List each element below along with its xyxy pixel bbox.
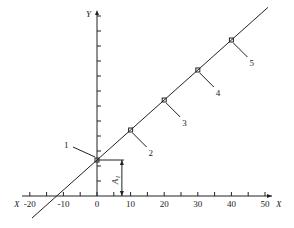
x-tick-label: 0 bbox=[95, 199, 100, 209]
offset-label: A₁ bbox=[110, 176, 120, 186]
x-tick-label: 20 bbox=[160, 199, 170, 209]
x-axis-label: X bbox=[275, 199, 282, 209]
leader-line bbox=[133, 133, 147, 147]
y-axis-arrow-icon bbox=[95, 10, 99, 15]
x-tick-label: -20 bbox=[24, 199, 36, 209]
leader-line bbox=[166, 103, 180, 117]
linear-relation-diagram: -20-1001020304050XXY 12345A₁ bbox=[0, 0, 294, 228]
x-tick-label: -10 bbox=[57, 199, 69, 209]
offset-arrow-up-icon bbox=[120, 160, 124, 165]
point-label: 5 bbox=[249, 58, 254, 68]
point-label: 1 bbox=[64, 140, 69, 150]
leader-line bbox=[200, 73, 214, 87]
point-label: 3 bbox=[182, 118, 187, 128]
x-tick-label: 10 bbox=[126, 199, 136, 209]
x-tick-label: 50 bbox=[261, 199, 271, 209]
offset-arrow-down-icon bbox=[120, 191, 124, 196]
y-axis-label: Y bbox=[86, 9, 92, 19]
x-axis-arrow-icon bbox=[267, 194, 272, 198]
fit-line bbox=[32, 7, 268, 218]
point-label: 2 bbox=[149, 148, 154, 158]
x-axis-label-left: X bbox=[13, 199, 20, 209]
point-label: 4 bbox=[216, 88, 221, 98]
leader-line bbox=[73, 147, 95, 157]
x-tick-label: 30 bbox=[193, 199, 203, 209]
x-tick-label: 40 bbox=[227, 199, 237, 209]
leader-line bbox=[233, 43, 247, 57]
